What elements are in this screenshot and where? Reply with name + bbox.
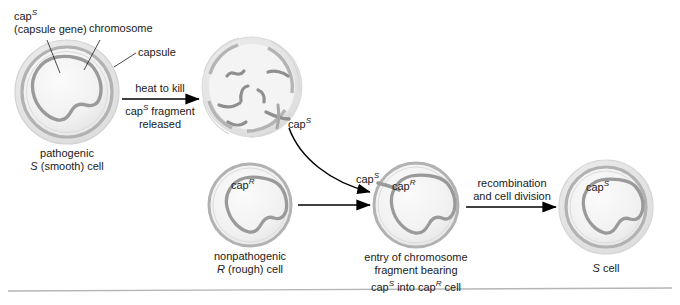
- recombination-arrow-label: recombination and cell division: [456, 177, 568, 203]
- transformed-cell-caption: entry of chromosome fragment bearing cap…: [351, 251, 481, 294]
- final-s-cell-caption: S cell: [556, 262, 656, 275]
- dead-cell-fragment-label: capS: [288, 114, 311, 131]
- final-s-cell: [559, 160, 653, 254]
- heat-arrow-label-below: capS fragment released: [108, 101, 212, 131]
- entering-fragment-label: capS: [356, 169, 379, 186]
- heat-killed-cell: [202, 37, 302, 137]
- s-cell-caption: pathogenic S (smooth) cell: [7, 147, 127, 173]
- transformation-diagram: capS (capsule gene) chromosome capsule p…: [0, 0, 680, 305]
- final-s-cell-inner-label: capS: [586, 177, 609, 194]
- transformed-cell-inner-label: capR: [392, 176, 416, 193]
- pathogenic-s-cell: [15, 40, 119, 144]
- r-cell-inner-label: capR: [231, 175, 255, 192]
- callout-capsule: capsule: [138, 46, 176, 59]
- heat-arrow-label-above: heat to kill: [110, 82, 210, 95]
- bottom-rule: [8, 288, 672, 291]
- r-cell-caption: nonpathogenic R (rough) cell: [190, 250, 310, 276]
- callout-cap-s-gene: capS (capsule gene): [14, 6, 87, 36]
- callout-chromosome: chromosome: [89, 22, 153, 35]
- transformed-cell: [374, 163, 458, 247]
